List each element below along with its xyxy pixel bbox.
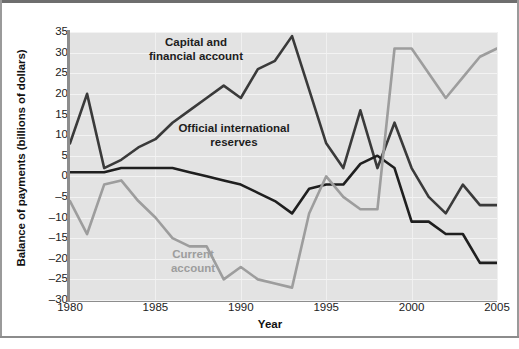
y-axis-tick-label: –10 [34, 212, 68, 224]
figure-left-border [0, 0, 2, 338]
x-axis-label: Year [200, 318, 340, 330]
x-axis-tick-label: 1980 [40, 301, 100, 313]
x-axis-tick-label: 1995 [296, 301, 356, 313]
y-axis-tick-label: 0 [34, 170, 68, 182]
y-axis-tick-label: –20 [34, 253, 68, 265]
y-axis-tick-label: –25 [34, 273, 68, 285]
y-axis-tick-label: 10 [34, 129, 68, 141]
y-axis-tick-labels: 35302520151050–5–10–15–20–25–30 [34, 0, 68, 349]
x-axis-tick-label: 2005 [467, 301, 519, 313]
annotation-current-account: Current account [150, 248, 236, 275]
y-axis-tick-label: 15 [34, 109, 68, 121]
y-axis-tick-label: –15 [34, 232, 68, 244]
y-axis-tick-label: 35 [34, 26, 68, 38]
annotation-official-international-reserves: Official international reserves [178, 122, 290, 149]
x-axis-tick-label: 1990 [211, 301, 271, 313]
y-axis-tick-label: 5 [34, 150, 68, 162]
x-axis-tick-label: 1985 [125, 301, 185, 313]
x-axis-tick-label: 2000 [382, 301, 442, 313]
y-axis-label: Balance of payments (billions of dollars… [15, 33, 27, 283]
plot-area [70, 32, 497, 300]
y-axis-tick-label: –5 [34, 191, 68, 203]
gridline-vertical [497, 32, 498, 300]
y-axis-tick-label: 25 [34, 67, 68, 79]
figure-top-border [0, 0, 519, 3]
series-line [70, 156, 497, 263]
annotation-capital-and-financial-account: Capital and financial account [144, 36, 248, 63]
y-axis-tick-label: 20 [34, 88, 68, 100]
chart-figure: Balance of payments (billions of dollars… [0, 0, 519, 349]
series-lines [70, 32, 497, 300]
figure-bottom-border [0, 336, 519, 338]
y-axis-tick-label: 30 [34, 47, 68, 59]
